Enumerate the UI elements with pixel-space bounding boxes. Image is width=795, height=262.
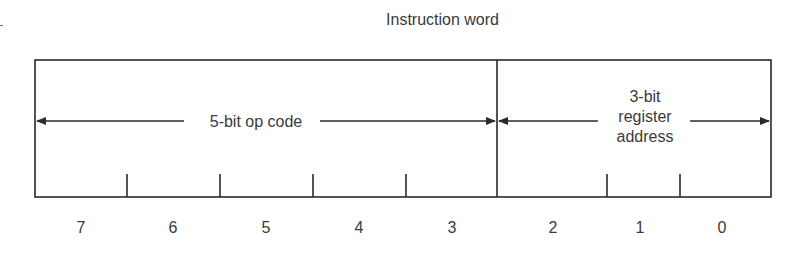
bit-label-7: 7 [66,220,96,236]
bit-ticks [127,174,680,197]
register-label-line-1: 3-bit [600,87,690,107]
opcode-field-label: 5-bit op code [192,114,320,130]
bit-label-6: 6 [158,220,188,236]
register-label-line-2: register [614,107,675,127]
register-label-line-3: address [600,127,690,147]
bit-label-1: 1 [625,220,655,236]
bit-label-2: 2 [538,220,568,236]
bit-label-0: 0 [707,220,737,236]
bit-label-4: 4 [344,220,374,236]
bit-label-5: 5 [251,220,281,236]
register-field-label: 3-bit register address [600,87,690,147]
bit-label-3: 3 [437,220,467,236]
